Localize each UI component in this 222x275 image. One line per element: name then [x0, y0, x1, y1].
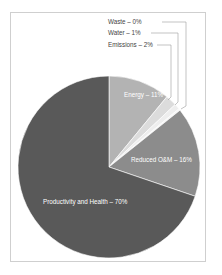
- pie-slices: [18, 76, 200, 258]
- label-emissions: Emissions – 2%: [108, 41, 153, 48]
- label-waste: Waste – 0%: [108, 18, 142, 25]
- pie-chart: Waste – 0% Water – 1% Emissions – 2% Ene…: [0, 0, 222, 275]
- label-energy: Energy – 11%: [124, 91, 163, 99]
- label-water: Water – 1%: [108, 29, 141, 36]
- label-reduced-om: Reduced O&M – 16%: [131, 156, 192, 163]
- label-productivity-health: Productivity and Health – 70%: [43, 198, 128, 206]
